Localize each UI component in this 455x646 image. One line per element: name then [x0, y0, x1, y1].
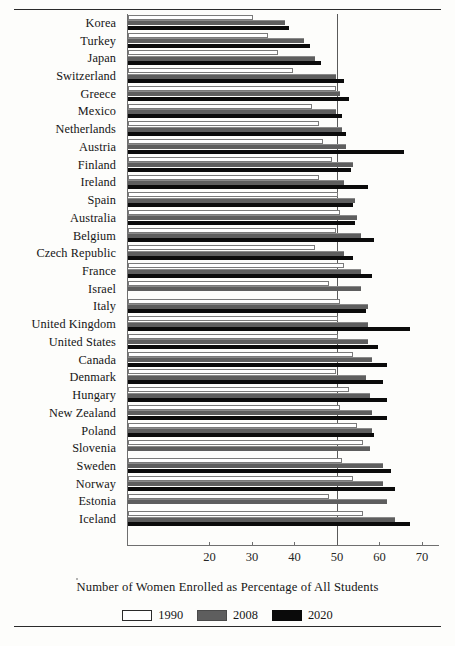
- bar-2020: [128, 363, 387, 367]
- legend-label: 2020: [308, 608, 333, 623]
- bar-2020: [128, 203, 353, 207]
- category-label: United Kingdom: [32, 318, 116, 330]
- bar-2008: [128, 304, 368, 309]
- x-tick-label: 40: [288, 550, 301, 565]
- bar-1990: [128, 175, 319, 180]
- bar-1990: [128, 121, 319, 126]
- bar-2008: [128, 393, 370, 398]
- bar-group: [128, 210, 440, 227]
- legend-label: 2008: [233, 608, 258, 623]
- bar-1990: [128, 228, 336, 233]
- bar-2020: [128, 274, 372, 278]
- x-tick: [252, 542, 253, 546]
- bar-2008: [128, 322, 368, 327]
- bar-group: [128, 299, 440, 316]
- bar-2008: [128, 91, 340, 96]
- bar-1990: [128, 33, 268, 38]
- x-tick-label: 50: [331, 550, 344, 565]
- bar-1990: [128, 245, 315, 250]
- category-label: Denmark: [70, 371, 116, 383]
- x-tick: [209, 542, 210, 546]
- bar-2020: [128, 398, 387, 402]
- bar-group: [128, 50, 440, 67]
- bar-2008: [128, 499, 387, 504]
- bar-group: [128, 511, 440, 528]
- bar-2008: [128, 20, 285, 25]
- bar-1990: [128, 139, 323, 144]
- category-label: Mexico: [78, 105, 116, 117]
- bar-group: [128, 228, 440, 245]
- bar-1990: [128, 423, 357, 428]
- category-label: Netherlands: [55, 123, 116, 135]
- bar-2020: [128, 114, 342, 118]
- bar-1990: [128, 405, 340, 410]
- bar-2020: [128, 416, 387, 420]
- legend-item: 2020: [272, 608, 333, 623]
- bar-2008: [128, 180, 344, 185]
- category-label: Turkey: [80, 35, 116, 47]
- bar-2008: [128, 375, 366, 380]
- bar-2020: [128, 44, 310, 48]
- category-label: Korea: [85, 17, 116, 29]
- bar-2008: [128, 38, 304, 43]
- legend-swatch: [272, 610, 302, 621]
- bar-2020: [128, 327, 410, 331]
- category-label: Czech Republic: [36, 247, 116, 259]
- category-label: Austria: [79, 141, 116, 153]
- bar-group: [128, 139, 440, 156]
- x-tick: [422, 542, 423, 546]
- bar-2008: [128, 251, 344, 256]
- bar-2020: [128, 238, 374, 242]
- bar-1990: [128, 281, 329, 286]
- bar-group: [128, 245, 440, 262]
- bar-1990: [128, 440, 363, 445]
- x-tick: [379, 542, 380, 546]
- bar-1990: [128, 511, 363, 516]
- bar-group: [128, 104, 440, 121]
- bar-1990: [128, 476, 353, 481]
- bar-2020: [128, 185, 368, 189]
- bar-group: [128, 86, 440, 103]
- bar-group: [128, 33, 440, 50]
- bar-2008: [128, 357, 372, 362]
- bar-2008: [128, 74, 336, 79]
- bar-2008: [128, 215, 357, 220]
- bar-2020: [128, 522, 410, 526]
- bar-2020: [128, 150, 404, 154]
- bar-group: [128, 15, 440, 32]
- category-label: Switzerland: [56, 70, 116, 82]
- top-rule: [14, 9, 441, 10]
- bar-2020: [128, 168, 351, 172]
- bar-1990: [128, 352, 353, 357]
- bar-2008: [128, 269, 361, 274]
- bar-group: [128, 405, 440, 422]
- category-label: Greece: [81, 88, 116, 100]
- bar-group: [128, 458, 440, 475]
- bar-2008: [128, 144, 346, 149]
- category-label: Hungary: [72, 389, 116, 401]
- category-label: Canada: [79, 354, 116, 366]
- bar-group: [128, 263, 440, 280]
- legend-swatch: [122, 610, 152, 621]
- bar-2008: [128, 463, 383, 468]
- x-axis-title: Number of Women Enrolled as Percentage o…: [0, 580, 455, 595]
- bar-2008: [128, 127, 342, 132]
- chart-page: KoreaTurkeyJapanSwitzerlandGreeceMexicoN…: [0, 0, 455, 646]
- bar-1990: [128, 387, 349, 392]
- bar-2008: [128, 56, 315, 61]
- bar-group: [128, 352, 440, 369]
- bar-1990: [128, 15, 253, 20]
- category-label: Poland: [81, 425, 116, 437]
- category-label: Belgium: [73, 230, 116, 242]
- legend-swatch: [197, 610, 227, 621]
- legend-label: 1990: [158, 608, 183, 623]
- bar-1990: [128, 210, 340, 215]
- bar-2008: [128, 410, 372, 415]
- bar-2008: [128, 286, 361, 291]
- x-tick-label: 70: [416, 550, 429, 565]
- x-axis-line: [127, 545, 439, 546]
- plot-region: 203040506070: [127, 14, 439, 546]
- bar-1990: [128, 50, 278, 55]
- category-label: Estonia: [78, 495, 116, 507]
- bar-group: [128, 316, 440, 333]
